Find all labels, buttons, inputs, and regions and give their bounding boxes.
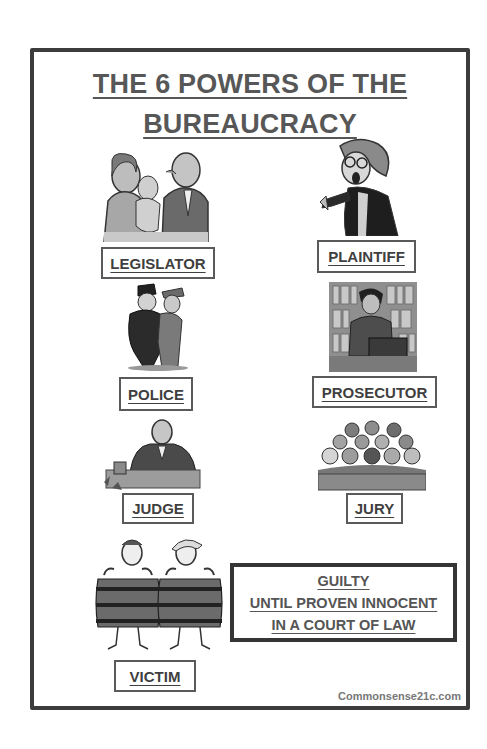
legislator-label: LEGISLATOR [101,247,215,279]
politician-holding-baby-icon [96,146,216,242]
jury-crowd-icon [318,420,426,492]
title-line-1: THE 6 POWERS OF THE [93,64,407,104]
lawyer-with-briefcase-icon [329,282,417,372]
slogan-line-3: IN A COURT OF LAW [272,614,416,636]
shouting-woman-icon [318,136,408,236]
prosecutor-label: PROSECUTOR [312,376,437,408]
watermark: Commonsense21c.com [338,690,461,702]
victim-label: VICTIM [114,660,196,692]
people-in-barrels-icon [94,535,224,653]
police-officer-arresting-man-icon [122,282,194,372]
poster-title: THE 6 POWERS OF THE BUREAUCRACY [30,64,470,144]
slogan-line-1: GUILTY [317,570,369,592]
judge-label: JUDGE [122,493,194,524]
slogan-line-2: UNTIL PROVEN INNOCENT [250,592,437,614]
jury-label: JURY [346,493,403,524]
slogan-box: GUILTY UNTIL PROVEN INNOCENT IN A COURT … [230,563,457,642]
plaintiff-label: PLAINTIFF [317,240,416,273]
judge-at-bench-icon [102,418,202,492]
police-label: POLICE [119,377,193,411]
